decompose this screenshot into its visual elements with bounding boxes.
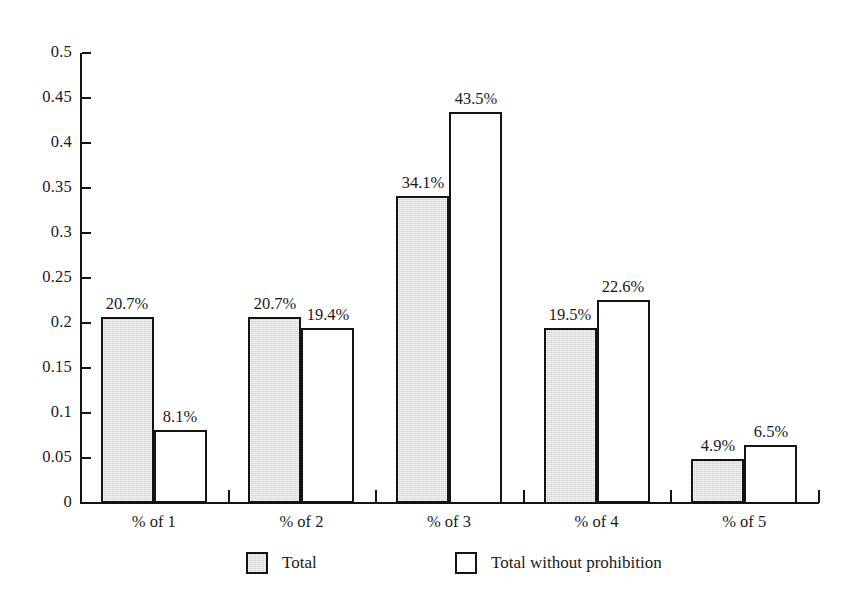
bar-value-label: 20.7% — [87, 295, 167, 312]
x-axis-category-label: % of 1 — [84, 513, 224, 531]
y-axis-label-wrap: 0.45 — [20, 89, 72, 106]
x-axis-category-label: % of 5 — [674, 513, 814, 531]
bar-value-label: 19.4% — [288, 306, 368, 323]
y-axis-tick — [82, 52, 91, 54]
y-axis-tick-label: 0 — [28, 494, 72, 511]
y-axis-tick — [82, 412, 91, 414]
x-axis-category-label: % of 4 — [527, 513, 667, 531]
y-axis-tick — [82, 97, 91, 99]
legend-swatch-total-without-prohibition-icon — [455, 552, 477, 574]
y-axis-tick-label: 0.45 — [28, 89, 72, 106]
y-axis-label-wrap: 0.15 — [20, 359, 72, 376]
y-axis-tick-label: 0.2 — [28, 314, 72, 331]
y-axis-label-wrap: 0.3 — [20, 224, 72, 241]
legend-item-total[interactable]: Total — [246, 552, 317, 574]
x-axis-tick — [670, 490, 672, 503]
y-axis-tick-label: 0.1 — [28, 404, 72, 421]
y-axis-tick-label: 0.3 — [28, 224, 72, 241]
bar-total-without-prohibition[interactable] — [154, 430, 207, 503]
legend-label-total-without-prohibition: Total without prohibition — [491, 552, 662, 574]
x-axis-tick — [818, 490, 820, 503]
y-axis-tick-label: 0.05 — [28, 449, 72, 466]
bar-value-label: 6.5% — [731, 423, 811, 440]
chart-legend: Total Total without prohibition — [0, 552, 865, 592]
y-axis-tick-label: 0.4 — [28, 134, 72, 151]
y-axis-tick — [82, 232, 91, 234]
x-axis-tick — [523, 490, 525, 503]
y-axis-tick — [82, 322, 91, 324]
legend-label-total: Total — [282, 552, 317, 574]
legend-swatch-total-icon — [246, 552, 268, 574]
y-axis-tick-label: 0.15 — [28, 359, 72, 376]
bar-total-without-prohibition[interactable] — [744, 445, 797, 504]
bar-value-label: 22.6% — [583, 278, 663, 295]
y-axis-tick — [82, 277, 91, 279]
y-axis-label-wrap: 0.2 — [20, 314, 72, 331]
y-axis-label-wrap: 0 — [20, 494, 72, 511]
y-axis-tick — [82, 142, 91, 144]
bar-total[interactable] — [396, 196, 449, 503]
y-axis-label-wrap: 0.05 — [20, 449, 72, 466]
x-axis-category-label: % of 2 — [231, 513, 371, 531]
y-axis-label-wrap: 0.25 — [20, 269, 72, 286]
bar-total[interactable] — [691, 459, 744, 503]
bar-total-without-prohibition[interactable] — [301, 328, 354, 503]
y-axis-tick — [82, 367, 91, 369]
x-axis-tick — [375, 490, 377, 503]
y-axis-label-wrap: 0.5 — [20, 44, 72, 61]
bar-chart: 00.050.10.150.20.250.30.350.40.450.5 % o… — [0, 0, 865, 612]
y-axis-label-wrap: 0.1 — [20, 404, 72, 421]
y-axis-tick — [82, 457, 91, 459]
y-axis-tick-label: 0.25 — [28, 269, 72, 286]
bar-total-without-prohibition[interactable] — [449, 112, 502, 504]
bar-total[interactable] — [248, 317, 301, 503]
x-axis-category-label: % of 3 — [379, 513, 519, 531]
y-axis-label-wrap: 0.35 — [20, 179, 72, 196]
legend-item-total-without-prohibition[interactable]: Total without prohibition — [455, 552, 662, 574]
bar-value-label: 8.1% — [140, 408, 220, 425]
y-axis-label-wrap: 0.4 — [20, 134, 72, 151]
y-axis-tick — [82, 502, 91, 504]
bar-value-label: 43.5% — [436, 90, 516, 107]
y-axis-tick-label: 0.35 — [28, 179, 72, 196]
bar-total-without-prohibition[interactable] — [597, 300, 650, 503]
bar-total[interactable] — [544, 328, 597, 504]
y-axis-tick-label: 0.5 — [28, 44, 72, 61]
x-axis-tick — [228, 490, 230, 503]
y-axis-tick — [82, 187, 91, 189]
